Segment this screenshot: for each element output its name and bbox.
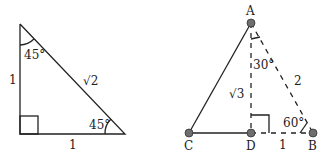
angle-marker-A xyxy=(251,37,260,39)
point-B xyxy=(309,129,317,137)
angle-label-B: 60° xyxy=(283,116,304,130)
right-angle-marker xyxy=(20,116,38,134)
angle-arc-top xyxy=(20,39,34,45)
left-triangle: 45° 45° 1 1 √2 xyxy=(9,24,125,152)
point-label-C: C xyxy=(184,139,193,153)
right-triangle: 30° 60° √3 2 1 A C D B xyxy=(184,4,317,153)
point-label-A: A xyxy=(245,4,255,18)
side-label-horizontal: 1 xyxy=(69,138,77,152)
point-D xyxy=(247,129,255,137)
angle-label-A: 30° xyxy=(253,58,274,72)
segment-AC xyxy=(189,23,251,133)
point-A xyxy=(247,19,255,27)
angle-label-top: 45° xyxy=(24,48,45,62)
side-label-DB: 1 xyxy=(279,138,287,152)
point-C xyxy=(185,129,193,137)
point-label-B: B xyxy=(308,139,317,153)
side-label-hypotenuse: √2 xyxy=(83,74,98,88)
side-label-AD: √3 xyxy=(229,87,244,101)
angle-label-bottom-right: 45° xyxy=(89,118,110,132)
side-label-vertical: 1 xyxy=(9,73,17,87)
point-label-D: D xyxy=(246,139,256,153)
side-label-AB: 2 xyxy=(294,74,302,88)
diagram-canvas: 45° 45° 1 1 √2 30° 60° √3 2 1 A C D B xyxy=(0,0,328,157)
